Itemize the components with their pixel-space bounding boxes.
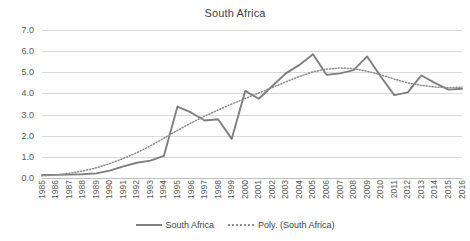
x-axis-tick-label: 1995: [173, 180, 182, 199]
series-line-poly-south-africa: [42, 68, 462, 176]
y-axis-tick-label: 6.0: [21, 47, 34, 56]
series-line-south-africa: [42, 54, 462, 175]
x-axis-tick-label: 1999: [227, 180, 236, 199]
x-axis-tick-label: 1990: [105, 180, 114, 199]
x-axis: 1985198619871988198919901991199219931994…: [42, 180, 462, 216]
series-layer: [42, 30, 462, 178]
gridline-0: [42, 178, 462, 179]
y-axis-tick-label: 0.0: [21, 174, 34, 183]
chart-title: South Africa: [0, 7, 470, 19]
y-axis-tick-label: 7.0: [21, 26, 34, 35]
legend-entry[interactable]: Poly. (South Africa): [228, 220, 334, 230]
x-axis-tick-label: 2004: [295, 180, 304, 199]
chart-container: South Africa 0.01.02.03.04.05.06.07.0 19…: [0, 0, 470, 241]
x-axis-tick-label: 2006: [322, 180, 331, 199]
y-axis-tick-label: 5.0: [21, 68, 34, 77]
y-axis-tick-label: 4.0: [21, 89, 34, 98]
x-axis-tick-label: 2016: [458, 180, 467, 199]
x-axis-tick-label: 2012: [403, 180, 412, 199]
x-axis-tick-label: 1994: [159, 180, 168, 199]
y-axis: 0.01.02.03.04.05.06.07.0: [0, 30, 40, 178]
plot-area: [42, 30, 462, 178]
x-axis-tick-label: 1991: [119, 180, 128, 199]
x-axis-tick-label: 1996: [187, 180, 196, 199]
x-axis-tick-label: 2009: [363, 180, 372, 199]
chart-legend: South AfricaPoly. (South Africa): [0, 220, 470, 230]
legend-swatch-icon: [136, 224, 162, 226]
x-axis-tick-label: 1998: [214, 180, 223, 199]
legend-label: Poly. (South Africa): [258, 220, 334, 230]
x-axis-tick-label: 2014: [430, 180, 439, 199]
legend-label: South Africa: [166, 220, 215, 230]
x-axis-tick-label: 1989: [92, 180, 101, 199]
x-axis-tick-label: 1985: [38, 180, 47, 199]
x-axis-tick-label: 2011: [390, 180, 399, 198]
x-axis-tick-label: 1993: [146, 180, 155, 199]
y-axis-tick-label: 3.0: [21, 110, 34, 119]
x-axis-tick-label: 2005: [308, 180, 317, 199]
x-axis-tick-label: 2007: [336, 180, 345, 199]
x-axis-tick-label: 1988: [78, 180, 87, 199]
x-axis-tick-label: 1992: [132, 180, 141, 199]
x-axis-tick-label: 2015: [444, 180, 453, 199]
x-axis-tick-label: 2002: [268, 180, 277, 199]
x-axis-tick-label: 2001: [254, 180, 263, 199]
x-axis-tick-label: 2010: [376, 180, 385, 199]
x-axis-tick-label: 2013: [417, 180, 426, 199]
legend-swatch-icon: [228, 224, 254, 226]
y-axis-tick-label: 1.0: [21, 152, 34, 161]
x-axis-tick-label: 2008: [349, 180, 358, 199]
x-axis-tick-label: 1986: [51, 180, 60, 199]
x-axis-tick-label: 1997: [200, 180, 209, 199]
x-axis-tick-label: 2000: [241, 180, 250, 199]
y-axis-tick-label: 2.0: [21, 131, 34, 140]
legend-entry[interactable]: South Africa: [136, 220, 215, 230]
x-axis-tick-label: 2003: [281, 180, 290, 199]
x-axis-tick-label: 1987: [65, 180, 74, 199]
